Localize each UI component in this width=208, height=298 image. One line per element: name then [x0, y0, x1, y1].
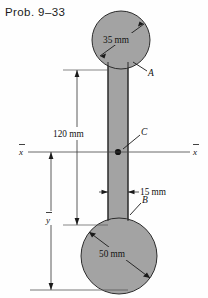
dim-15mm-label: 15 mm [140, 187, 167, 197]
point-a-label: A [147, 68, 154, 78]
mechanics-diagram: 35 mm 50 mm A B C x [0, 0, 208, 298]
figure-canvas: Prob. 9–33 35 mm 50 mm [0, 0, 208, 298]
point-a-leader: A [133, 62, 154, 78]
point-b-leader: B [130, 195, 148, 215]
dim-ybar-label: y [45, 215, 50, 225]
axis-right-label: x [192, 147, 197, 157]
dim-120mm-label: 120 mm [53, 129, 85, 139]
dim-ybar: y [43, 152, 59, 290]
dim-120mm: 120 mm [52, 70, 108, 225]
axis-left-label: x [18, 147, 23, 157]
centroid-label: C [141, 127, 148, 137]
top-diameter-label: 35 mm [103, 35, 130, 45]
bottom-diameter-label: 50 mm [99, 249, 126, 259]
